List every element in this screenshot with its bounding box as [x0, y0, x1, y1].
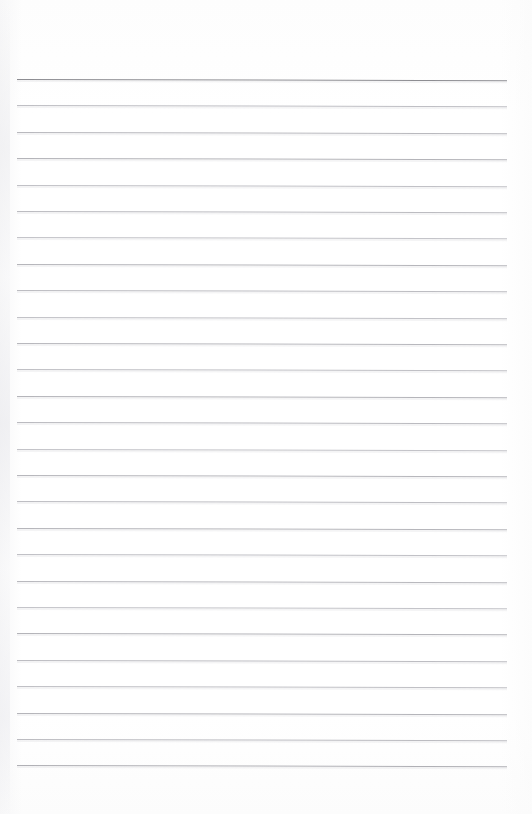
- writing-area[interactable]: [17, 79, 507, 769]
- notebook-page: [0, 0, 532, 814]
